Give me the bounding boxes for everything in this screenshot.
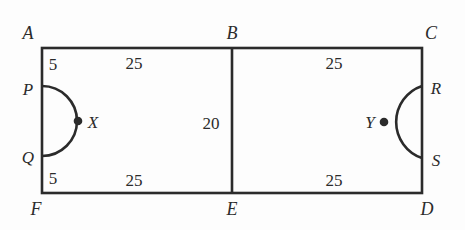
dimension-label-top-right: 25 [326, 55, 343, 72]
point-label-s: S [432, 152, 441, 169]
point-label-q: Q [22, 149, 34, 166]
geometry-figure: A B C F E D P Q R S X Y 5 5 25 25 25 25 … [0, 0, 465, 230]
dimension-label-left-top: 5 [49, 56, 58, 73]
center-dot-y [380, 118, 389, 127]
vertex-label-f: F [30, 200, 41, 218]
dimension-label-left-bottom: 5 [49, 170, 58, 187]
center-dot-x [74, 117, 83, 126]
point-label-p: P [23, 81, 33, 98]
vertex-label-e: E [226, 200, 237, 218]
center-label-y: Y [365, 114, 374, 131]
vertex-label-d: D [420, 200, 433, 218]
point-label-r: R [431, 80, 441, 97]
dimension-label-divider: 20 [203, 115, 220, 132]
dimension-label-top-left: 25 [126, 55, 143, 72]
dimension-label-bottom-left: 25 [126, 172, 143, 189]
right-semicircle-arc [396, 86, 422, 158]
vertex-label-a: A [22, 24, 33, 42]
dimension-label-bottom-right: 25 [326, 172, 343, 189]
vertex-label-c: C [425, 24, 437, 42]
left-semicircle-arc [42, 86, 77, 156]
vertex-label-b: B [226, 24, 237, 42]
center-label-x: X [88, 114, 98, 131]
